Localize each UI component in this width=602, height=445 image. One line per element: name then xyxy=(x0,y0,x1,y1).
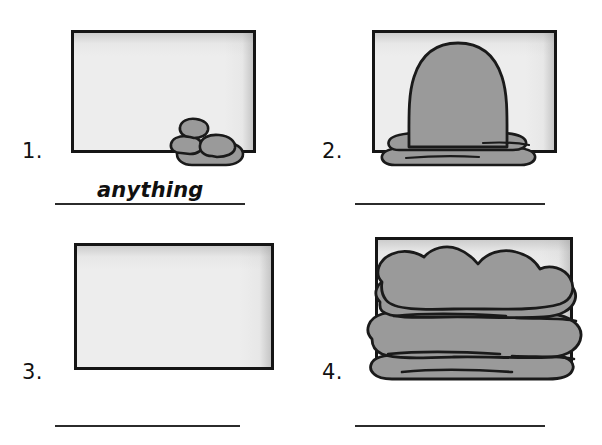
picture-frame-4-content xyxy=(378,240,570,369)
picture-frame-1-content xyxy=(74,33,253,150)
paper-texture xyxy=(74,33,253,150)
picture-frame-4 xyxy=(375,237,573,372)
picture-frame-1 xyxy=(71,30,256,153)
answer-text-1[interactable]: anything xyxy=(97,180,204,201)
paper-texture xyxy=(77,246,271,367)
answer-line-4[interactable] xyxy=(355,425,545,427)
paper-texture xyxy=(378,240,570,369)
item-number-4: 4. xyxy=(322,362,343,383)
item-number-3: 3. xyxy=(22,362,43,383)
picture-frame-3 xyxy=(74,243,274,370)
item-number-1: 1. xyxy=(22,141,43,162)
picture-frame-2-content xyxy=(375,33,554,150)
paper-texture xyxy=(375,33,554,150)
answer-line-3[interactable] xyxy=(55,425,240,427)
worksheet: 1. anything 2. xyxy=(0,0,602,445)
answer-line-2[interactable] xyxy=(355,203,545,205)
answer-line-1[interactable] xyxy=(55,203,245,205)
picture-frame-2 xyxy=(372,30,557,153)
picture-frame-3-content xyxy=(77,246,271,367)
item-number-2: 2. xyxy=(322,141,343,162)
